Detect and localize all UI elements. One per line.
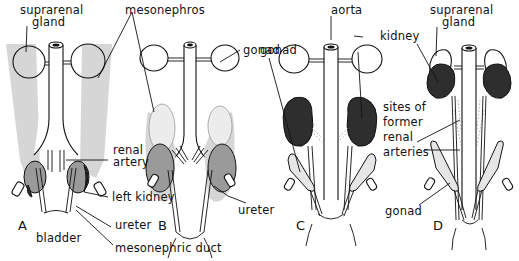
label-ureter-a: ureter — [115, 219, 151, 231]
mesonephros-right-a — [80, 44, 112, 178]
mesonephros-left-a — [6, 44, 40, 178]
label-suprarenal-gland-d: suprarenal gland — [430, 4, 493, 28]
label-kidney: kidney — [380, 30, 420, 42]
label-renal-artery: renal artery — [113, 144, 149, 168]
label-mesonephros: mesonephros — [125, 4, 205, 16]
bladder-a — [44, 211, 68, 214]
suprarenal-gland-right-b — [211, 45, 239, 71]
kidney-right-c — [347, 97, 377, 146]
label-gonad-d: gonad — [385, 205, 422, 217]
kidney-left-c — [283, 97, 313, 146]
panel-letter-c: C — [296, 219, 305, 232]
label-line: gland — [430, 16, 493, 28]
label-ureter-b: ureter — [238, 204, 274, 216]
panel-a — [6, 42, 112, 213]
kidney-right-d — [483, 64, 511, 98]
suprarenal-gland-right-c — [352, 45, 382, 73]
kidney-development-diagram: .o { stroke:#111; stroke-width:1.1; fill… — [0, 0, 519, 261]
label-line: former — [383, 115, 429, 130]
panel-c — [279, 44, 382, 246]
panel-b — [140, 42, 239, 258]
panel-letter-b: B — [158, 219, 167, 232]
label-mesonephric-duct: mesonephric duct — [115, 242, 222, 254]
panel-letter-a: A — [18, 219, 27, 232]
label-aorta: aorta — [331, 4, 362, 16]
gonad-right-b — [208, 106, 232, 146]
label-suprarenal-gland-a: suprarenal gland — [20, 4, 83, 28]
panel-letter-d: D — [433, 219, 443, 232]
label-line: artery — [113, 156, 149, 168]
label-line: arteries — [383, 145, 429, 160]
label-line: gland — [20, 16, 83, 28]
label-bladder: bladder — [36, 232, 81, 244]
label-line: sites of — [383, 100, 429, 115]
label-gonad-c: gonad — [260, 44, 297, 56]
label-line: renal — [383, 130, 429, 145]
label-sites-of-former-renal-arteries: sites of former renal arteries — [383, 100, 429, 160]
label-left-kidney: left kidney — [112, 191, 175, 203]
